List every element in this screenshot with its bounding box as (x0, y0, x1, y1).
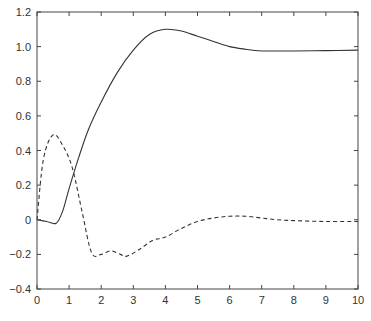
y-tick-label: 0 (25, 214, 31, 226)
x-tick-label: 5 (194, 294, 200, 306)
y-tick-label: 0.4 (16, 145, 31, 157)
x-tick-label: 4 (162, 294, 168, 306)
y-tick-label: 1.0 (16, 41, 31, 53)
x-tick-label: 8 (291, 294, 297, 306)
y-tick-label: 0.6 (16, 110, 31, 122)
x-tick-label: 9 (323, 294, 329, 306)
y-tick-label: 1.2 (16, 6, 31, 18)
y-tick-label: −0.2 (9, 248, 31, 260)
y-axis-tick-labels: −0.4−0.200.20.40.60.81.01.2 (9, 6, 31, 295)
x-tick-label: 1 (66, 294, 72, 306)
x-tick-label: 3 (130, 294, 136, 306)
plot-frame (37, 12, 358, 289)
y-tick-label: 0.8 (16, 75, 31, 87)
line-chart: 012345678910 −0.4−0.200.20.40.60.81.01.2 (0, 0, 371, 321)
x-tick-label: 7 (259, 294, 265, 306)
axes (37, 12, 358, 289)
plot-area (37, 29, 358, 256)
series-line-solid (37, 29, 358, 224)
x-tick-label: 6 (227, 294, 233, 306)
x-tick-label: 10 (352, 294, 364, 306)
y-tick-label: −0.4 (9, 283, 31, 295)
x-tick-label: 2 (98, 294, 104, 306)
x-tick-label: 0 (34, 294, 40, 306)
series-line-dashed (37, 134, 358, 256)
x-axis-tick-labels: 012345678910 (34, 294, 364, 306)
y-tick-label: 0.2 (16, 179, 31, 191)
